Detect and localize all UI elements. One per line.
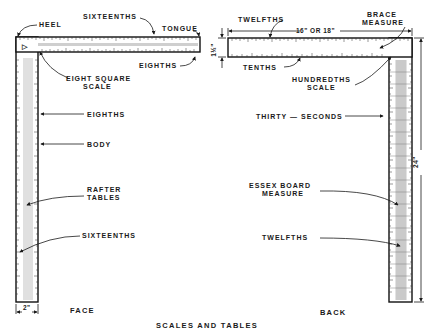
label-heel: HEEL (39, 21, 62, 28)
back-body-grid (389, 60, 412, 300)
label-hundredths-2: SCALE (307, 84, 336, 91)
face-body (16, 37, 38, 302)
label-brace-1: BRACE (367, 11, 397, 18)
face-square: ▷ HEEL SIXTEENTHS TONGUE EIGHTHS EIGHT S… (16, 13, 200, 315)
label-eight-square-1: EIGHT SQUARE (66, 75, 131, 83)
label-sixteenths-body: SIXTEENTHS (82, 232, 136, 239)
label-rafter-1: RAFTER (87, 186, 121, 193)
label-tongue: TONGUE (162, 25, 198, 32)
dimension-tongue-length: 16" OR 18" (296, 27, 335, 34)
dimension-tongue-width: 1½" (210, 43, 217, 57)
carpenters-square-diagram: ▷ HEEL SIXTEENTHS TONGUE EIGHTHS EIGHT S… (0, 0, 435, 334)
label-tenths: TENTHS (243, 64, 277, 71)
dimension-body-length: 24" (412, 156, 419, 168)
label-sixteenths-top: SIXTEENTHS (83, 13, 137, 20)
dimension-body-width: 2" (23, 304, 31, 311)
eight-square-scale-strip (38, 43, 198, 46)
label-back: BACK (320, 308, 346, 317)
label-twelfths-top: TWELFTHS (238, 16, 284, 23)
label-thirty-seconds: THIRTY — SECONDS (256, 113, 343, 120)
label-essex-1: ESSEX BOARD (249, 182, 311, 189)
label-twelfths-body: TWELFTHS (262, 234, 308, 241)
figure-caption: SCALES AND TABLES (156, 321, 258, 330)
label-brace-2: MEASURE (362, 19, 404, 26)
label-hundredths-1: HUNDREDTHS (292, 76, 351, 83)
label-eighths-tongue: EIGHTHS (139, 62, 177, 69)
label-rafter-2: TABLES (87, 194, 120, 201)
label-essex-2: MEASURE (262, 190, 304, 197)
label-face: FACE (70, 306, 95, 315)
heel-mark-icon: ▷ (21, 43, 28, 51)
label-eight-square-2: SCALE (83, 83, 112, 90)
label-body: BODY (87, 141, 111, 148)
back-square: TWELFTHS 16" OR 18" BRACE MEASURE TENTHS… (210, 11, 424, 317)
label-eighths-body: EIGHTHS (87, 111, 125, 118)
